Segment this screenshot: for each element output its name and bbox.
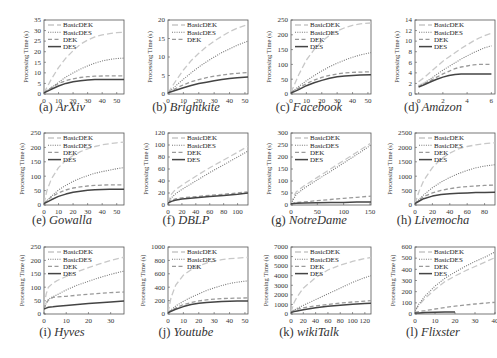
x-tick-label: 60 (324, 317, 332, 325)
caption-label: (g) (271, 213, 289, 227)
y-tick-label: 4000 (274, 272, 289, 280)
x-tick-label: 30 (211, 317, 219, 325)
series-line-basicdes (291, 145, 371, 204)
y-tick-label: 5 (162, 72, 166, 80)
caption-label: (i) (39, 325, 54, 339)
y-tick-label: 0 (285, 201, 289, 209)
y-tick-label: 250 (278, 141, 289, 149)
legend-entry: DES (434, 156, 447, 164)
y-tick-label: 50 (281, 189, 289, 197)
y-tick-label: 1500 (398, 158, 413, 166)
series-line-dek (415, 185, 495, 204)
chart-caption: (g) NotreDame (247, 213, 371, 228)
y-tick-label: 200 (402, 288, 413, 296)
y-tick-label: 600 (402, 243, 413, 251)
chart-panel-brightkite: 0510152001020304050Processing Time (s)Ba… (124, 0, 248, 118)
y-tick-label: 30 (34, 27, 42, 35)
y-axis-label: Processing Time (s) (389, 255, 397, 307)
y-tick-label: 250 (31, 129, 42, 137)
caption-title: Facebook (293, 100, 342, 114)
series-line-des (44, 79, 124, 93)
x-tick-label: 30 (472, 317, 480, 325)
caption-label: (h) (397, 213, 415, 227)
y-tick-label: 6 (409, 59, 413, 67)
chart-caption: (h) Livemocha (371, 213, 495, 228)
caption-title: Youtube (174, 325, 214, 339)
y-tick-label: 35 (34, 16, 42, 24)
y-tick-label: 7000 (274, 243, 289, 251)
legend: BasicDEKBasicDESDEKDES (48, 21, 93, 51)
y-tick-label: 10 (34, 69, 42, 77)
y-tick-label: 0 (38, 201, 42, 209)
y-tick-label: 800 (155, 257, 166, 265)
y-tick-label: 0 (162, 90, 166, 98)
x-tick-label: 0 (166, 317, 170, 325)
x-tick-label: 40 (492, 317, 497, 325)
caption-title: Hyves (54, 325, 85, 339)
caption-label: (e) (32, 213, 49, 227)
y-axis-label: Processing Time (s) (139, 255, 147, 307)
series-line-dek (44, 76, 124, 93)
x-tick-label: 0 (413, 317, 417, 325)
legend: BasicDEKBasicDESDEKDES (295, 134, 340, 164)
caption-label: (k) (279, 325, 297, 339)
chart-panel-facebook: 05010015020025001020304050Processing Tim… (247, 0, 371, 118)
y-tick-label: 1000 (274, 301, 289, 309)
y-tick-label: 100 (402, 299, 413, 307)
y-tick-label: 150 (278, 46, 289, 54)
caption-title: wikiTalk (297, 325, 339, 339)
y-tick-label: 150 (278, 165, 289, 173)
legend-entry: DES (434, 43, 447, 51)
series-line-dek (44, 185, 124, 204)
caption-label: (f) (163, 213, 179, 227)
caption-title: ArXiv (56, 100, 85, 114)
series-line-dek (168, 298, 248, 313)
figure-grid: 0510152025303501020304050Processing Time… (0, 0, 497, 358)
series-line-dek (415, 302, 495, 312)
y-tick-label: 2 (409, 80, 413, 88)
chart-caption: (l) Flixster (371, 325, 495, 340)
y-tick-label: 0 (409, 201, 413, 209)
series-line-des (168, 77, 248, 93)
legend: BasicDEKBasicDESDEKDES (419, 21, 464, 51)
y-tick-label: 25 (34, 37, 42, 45)
y-tick-label: 200 (278, 153, 289, 161)
y-tick-label: 120 (155, 129, 166, 137)
series-line-basicdek (44, 32, 124, 93)
y-tick-label: 100 (155, 141, 166, 149)
y-tick-label: 400 (402, 266, 413, 274)
y-tick-label: 0 (285, 310, 289, 318)
y-axis-label: Processing Time (s) (386, 143, 394, 195)
y-tick-label: 6000 (274, 253, 289, 261)
y-tick-label: 500 (402, 187, 413, 195)
chart-caption: (f) DBLP (124, 213, 248, 228)
y-tick-label: 15 (34, 59, 42, 67)
chart-panel-notredame: 050100150200250300050100150Processing Ti… (247, 113, 371, 231)
chart-panel-flixster: 0100200300400500600010203040Processing T… (371, 227, 495, 345)
x-tick-label: 30 (107, 317, 115, 325)
chart-panel-arxiv: 0510152025303501020304050Processing Time… (0, 0, 124, 118)
y-tick-label: 600 (155, 270, 166, 278)
y-tick-label: 100 (31, 284, 42, 292)
y-axis-label: Processing Time (s) (142, 143, 150, 195)
series-line-dek (419, 64, 492, 86)
legend-entry: DES (310, 270, 323, 278)
series-line-basicdes (168, 41, 248, 93)
chart-panel-hyves: 0501001502002500102030Processing Time (s… (0, 227, 124, 345)
caption-label: (a) (39, 100, 56, 114)
legend: BasicDEKBasicDESDEKDES (172, 134, 217, 164)
series-line-dek (168, 192, 248, 203)
y-tick-label: 50 (34, 297, 42, 305)
y-tick-label: 200 (155, 297, 166, 305)
series-line-des (415, 192, 495, 203)
chart-panel-livemocha: 05001000150020002500020406080Processing … (371, 113, 495, 231)
series-line-des (415, 312, 455, 313)
y-tick-label: 150 (31, 158, 42, 166)
chart-caption: (k) wikiTalk (247, 325, 371, 340)
x-tick-label: 80 (337, 317, 345, 325)
y-axis-label: Processing Time (s) (265, 143, 273, 195)
series-line-des (168, 301, 248, 313)
y-tick-label: 40 (158, 177, 166, 185)
series-line-basicdes (419, 46, 492, 86)
y-tick-label: 100 (31, 173, 42, 181)
